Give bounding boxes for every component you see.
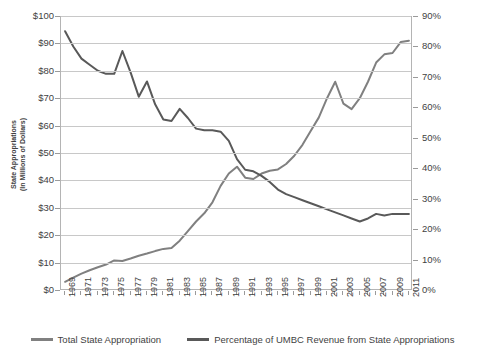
x-axis-tick-mark [211,291,212,295]
x-axis-tick-mark [162,291,163,295]
x-axis-tick-label: 1975 [117,277,126,297]
gridline [61,208,411,209]
x-axis-tick-label: 1977 [134,277,143,297]
y-axis-right-tick-mark [413,260,418,261]
gridline [61,153,411,154]
y-axis-right-tick-mark [413,199,418,200]
legend-line-icon [31,338,53,341]
x-axis-tick-label: 1993 [265,277,274,297]
y-axis-left-tick-label: $40 [0,175,54,185]
x-axis-tick-mark [80,291,81,295]
series-line [65,41,409,282]
y-axis-right-tick-mark [413,168,418,169]
y-axis-right-tick-mark [413,107,418,108]
y-axis-title: State Appropriations (In Millions of Dol… [10,85,27,225]
x-axis-tick-mark [179,291,180,295]
x-axis-tick-mark [64,291,65,295]
gridline [61,180,411,181]
x-axis-tick-label: 1995 [281,277,290,297]
y-axis-right-tick-label: 90% [422,11,441,21]
y-axis-left-tick-label: $80 [0,66,54,76]
y-axis-right-tick-label: 40% [422,163,441,173]
x-axis-tick-mark [359,291,360,295]
x-axis-tick-mark [277,291,278,295]
y-axis-left-tick-label: $0 [0,285,54,295]
gridline [61,16,411,17]
x-axis-tick-label: 1999 [314,277,323,297]
x-axis-tick-mark [392,291,393,295]
gridline [61,43,411,44]
y-axis-left-tick-label: $10 [0,258,54,268]
x-axis-tick-mark [195,291,196,295]
y-axis-left-tick-label: $30 [0,203,54,213]
y-axis-right-tick-mark [413,77,418,78]
x-axis-tick-mark [293,291,294,295]
x-axis-tick-mark [326,291,327,295]
x-axis-tick-mark [244,291,245,295]
y-axis-right-tick-mark [413,16,418,17]
x-axis-tick-label: 1981 [166,277,175,297]
y-axis-right-tick-label: 50% [422,133,441,143]
y-axis-right-tick-label: 80% [422,41,441,51]
x-axis-tick-mark [130,291,131,295]
gridline [61,98,411,99]
gridline [61,126,411,127]
x-axis-tick-mark [310,291,311,295]
x-axis-tick-label: 1969 [68,277,77,297]
chart-legend: Total State AppropriationPercentage of U… [0,334,485,345]
gridline [61,71,411,72]
gridline [61,263,411,264]
y-axis-right-tick-mark [413,229,418,230]
y-axis-left-tick-label: $70 [0,93,54,103]
x-axis-tick-label: 2003 [346,277,355,297]
x-axis-tick-label: 1985 [199,277,208,297]
y-axis-right-tick-mark [413,46,418,47]
y-axis-left-tick-label: $60 [0,121,54,131]
x-axis-tick-mark [375,291,376,295]
y-axis-right: 0%10%20%30%40%50%60%70%80%90% [413,16,473,290]
x-axis-tick-label: 2011 [412,278,421,297]
plot-area [60,16,412,290]
x-axis-tick-label: 1997 [297,277,306,297]
legend-label: Total State Appropriation [58,334,162,345]
x-axis-tick-mark [342,291,343,295]
x-axis-tick-label: 1971 [84,277,93,297]
y-axis-title-line2: (In Millions of Dollars) [18,85,27,225]
x-axis-tick-label: 1979 [150,277,159,297]
x-axis-tick-label: 1983 [183,277,192,297]
x-axis-tick-mark [113,291,114,295]
y-axis-right-tick-label: 0% [422,285,436,295]
y-axis-right-tick-label: 20% [422,224,441,234]
x-axis-tick-label: 2007 [379,277,388,297]
x-axis-tick-label: 1989 [232,277,241,297]
y-axis-right-tick-label: 70% [422,72,441,82]
y-axis-left-tick-label: $90 [0,38,54,48]
y-axis-left-tick-label: $100 [0,11,54,21]
x-axis-tick-label: 2009 [396,277,405,297]
x-axis: 1969197119731975197719791981198319851987… [60,291,412,333]
line-chart: $0$10$20$30$40$50$60$70$80$90$100 State … [0,0,485,354]
legend-line-icon [187,338,209,341]
y-axis-right-tick-label: 10% [422,255,441,265]
legend-item[interactable]: Total State Appropriation [31,334,162,345]
y-axis-right-tick-mark [413,138,418,139]
y-axis-left-tick-label: $50 [0,148,54,158]
x-axis-tick-mark [261,291,262,295]
y-axis-right-tick-label: 30% [422,194,441,204]
legend-label: Percentage of UMBC Revenue from State Ap… [214,334,454,345]
gridline [61,235,411,236]
x-axis-tick-mark [228,291,229,295]
x-axis-tick-mark [408,291,409,295]
y-axis-title-line1: State Appropriations [10,85,19,225]
x-axis-tick-label: 1987 [215,277,224,297]
x-axis-tick-label: 2005 [363,277,372,297]
x-axis-tick-mark [146,291,147,295]
legend-item[interactable]: Percentage of UMBC Revenue from State Ap… [187,334,454,345]
x-axis-tick-label: 1991 [248,277,257,297]
y-axis-right-tick-label: 60% [422,102,441,112]
y-axis-left-tick-label: $20 [0,230,54,240]
x-axis-tick-label: 2001 [330,277,339,297]
x-axis-tick-mark [97,291,98,295]
x-axis-tick-label: 1973 [101,277,110,297]
